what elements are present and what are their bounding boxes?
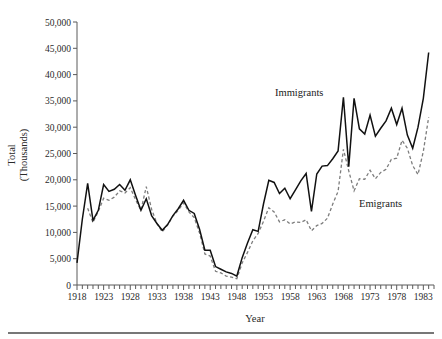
chart-figure: 50,000 45,000 40,000 35,000 30,000 25,00…	[0, 0, 442, 339]
y-tick-label: 0	[66, 281, 71, 291]
immigration-emigration-line-chart: 50,000 45,000 40,000 35,000 30,000 25,00…	[0, 0, 442, 339]
y-tick-label: 15,000	[45, 202, 71, 212]
y-tick-label: 20,000	[45, 175, 71, 185]
y-tick-label: 25,000	[45, 149, 71, 159]
x-tick-label: 1928	[121, 292, 140, 302]
y-axis-title: Total (Thousands)	[6, 128, 30, 181]
series-line-immigrants	[77, 53, 429, 277]
x-tick-label: 1963	[307, 292, 326, 302]
x-axis-title: Year	[245, 313, 265, 324]
axes	[73, 22, 434, 290]
y-tick-label: 40,000	[45, 70, 71, 80]
x-tick-label: 1918	[68, 292, 87, 302]
y-tick-label: 30,000	[45, 123, 71, 133]
y-tick-label: 45,000	[45, 44, 71, 54]
y-tick-label: 35,000	[45, 96, 71, 106]
series-group	[77, 53, 429, 279]
x-tick-label: 1973	[361, 292, 380, 302]
y-axis-title-line2: (Thousands)	[18, 128, 30, 181]
annotation-emigrants: Emigrants	[359, 198, 402, 209]
x-tick-label: 1953	[254, 292, 273, 302]
x-tick-label: 1968	[334, 292, 353, 302]
x-tick-label: 1978	[387, 292, 406, 302]
x-axis-tickmarks	[77, 285, 434, 290]
x-tick-label: 1958	[281, 292, 300, 302]
y-tick-label: 10,000	[45, 228, 71, 238]
x-tick-label: 1983	[414, 292, 433, 302]
x-tick-label: 1933	[147, 292, 166, 302]
y-axis-tickmarks	[73, 22, 77, 285]
annotation-immigrants: Immigrants	[275, 87, 323, 98]
y-tick-label: 5,000	[50, 254, 72, 264]
y-axis-title-line1: Total	[6, 144, 17, 166]
x-tick-label: 1923	[94, 292, 113, 302]
x-tick-label: 1938	[174, 292, 193, 302]
x-axis-tick-labels: 1918192319281933193819431948195319581963…	[68, 292, 434, 302]
x-tick-label: 1943	[201, 292, 220, 302]
y-tick-label: 50,000	[45, 18, 71, 28]
x-tick-label: 1948	[227, 292, 246, 302]
y-axis-tick-labels: 50,000 45,000 40,000 35,000 30,000 25,00…	[45, 18, 71, 291]
